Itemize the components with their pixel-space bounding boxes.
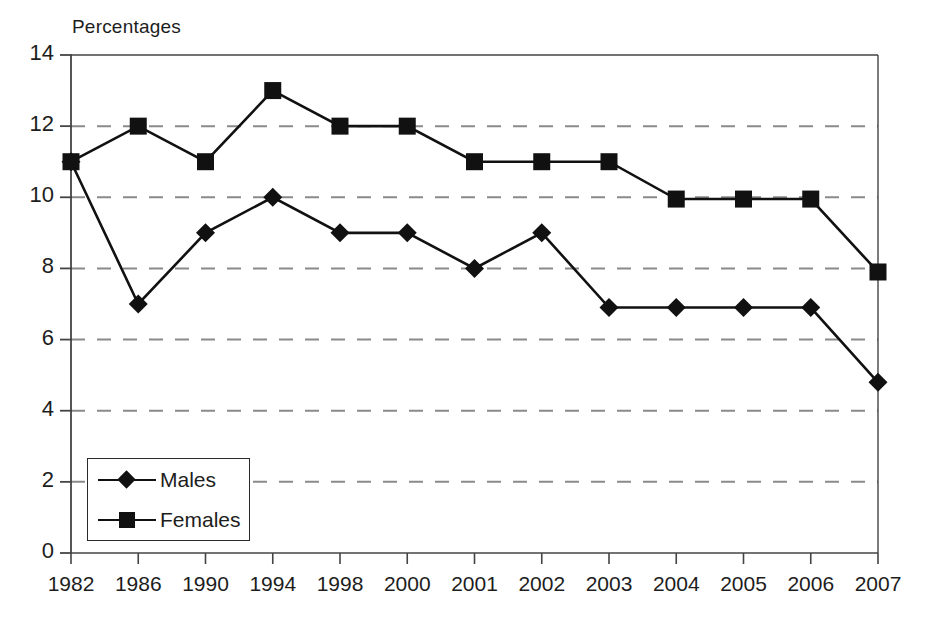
y-tick-label-6: 6: [0, 325, 54, 351]
series-line-females: [71, 91, 878, 272]
data-point-males-2005: [734, 298, 753, 317]
y-tick-label-4: 4: [0, 396, 54, 422]
legend-item-males: Males: [88, 459, 249, 500]
data-point-males-2001: [465, 259, 484, 278]
data-point-females-1990: [197, 153, 214, 170]
square-marker-icon: [98, 507, 156, 533]
data-point-males-1994: [263, 188, 282, 207]
data-point-females-1994: [264, 82, 281, 99]
data-point-females-2007: [870, 263, 887, 280]
data-point-females-2006: [802, 191, 819, 208]
y-tick-label-0: 0: [0, 538, 54, 564]
y-tick-label-12: 12: [0, 111, 54, 137]
legend-label-males: Males: [160, 469, 216, 490]
data-point-females-1998: [332, 118, 349, 135]
data-point-males-2000: [398, 223, 417, 242]
data-point-males-1998: [331, 223, 350, 242]
chart-container: Percentages 02468101214 1982198619901994…: [0, 0, 934, 621]
data-point-females-2003: [601, 153, 618, 170]
chart-legend: Males Females: [87, 458, 250, 541]
data-point-females-2005: [735, 191, 752, 208]
data-point-females-2001: [466, 153, 483, 170]
y-tick-label-2: 2: [0, 467, 54, 493]
y-tick-label-8: 8: [0, 253, 54, 279]
diamond-marker-icon: [98, 467, 156, 493]
legend-item-females: Females: [88, 499, 249, 540]
data-point-males-2004: [667, 298, 686, 317]
data-point-females-2004: [668, 191, 685, 208]
legend-label-females: Females: [160, 509, 241, 530]
data-point-females-1986: [130, 118, 147, 135]
data-point-females-2002: [533, 153, 550, 170]
y-tick-label-10: 10: [0, 182, 54, 208]
data-point-females-2000: [399, 118, 416, 135]
data-point-females-1982: [63, 153, 80, 170]
y-tick-label-14: 14: [0, 40, 54, 66]
x-tick-label-2007: 2007: [838, 572, 918, 596]
